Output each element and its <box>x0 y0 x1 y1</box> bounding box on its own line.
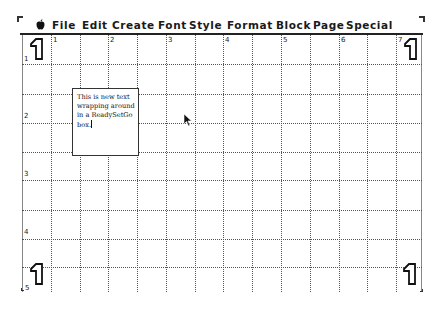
page-number-marker-bottom-right[interactable] <box>403 263 417 285</box>
grid-column-line <box>80 35 81 292</box>
menu-create[interactable]: Create <box>112 20 155 31</box>
apple-menu-icon[interactable] <box>36 19 45 33</box>
grid-row-line <box>22 180 422 181</box>
page-number-marker-top-left[interactable] <box>30 38 44 60</box>
text-insertion-caret <box>91 120 92 128</box>
grid-column-line <box>108 35 109 292</box>
grid-row-line <box>22 210 422 211</box>
text-block-content[interactable]: This is new text wrapping around in a Re… <box>77 93 139 130</box>
menu-edit[interactable]: Edit <box>82 20 108 31</box>
grid-left-edge <box>22 35 23 292</box>
grid-column-line <box>396 35 397 292</box>
row-label: 1 <box>24 56 28 63</box>
page-number-marker-top-right[interactable] <box>404 38 418 60</box>
row-label: 4 <box>24 229 28 236</box>
page-number-marker-bottom-left[interactable] <box>30 263 44 285</box>
menu-page[interactable]: Page <box>313 20 345 31</box>
row-label: 2 <box>24 113 28 120</box>
grid-row-line <box>22 239 422 240</box>
grid-column-line <box>281 35 282 292</box>
grid-row-line <box>22 267 422 268</box>
grid-column-line <box>310 35 311 292</box>
grid-column-line <box>339 35 340 292</box>
grid-column-line <box>223 35 224 292</box>
menu-bar: File Edit Create Font Style Format Block… <box>0 0 443 34</box>
menu-font[interactable]: Font <box>158 20 187 31</box>
text-line: box. <box>77 121 91 129</box>
column-label: 3 <box>168 37 172 44</box>
text-line: This is new text <box>77 93 139 102</box>
column-label: 6 <box>341 37 345 44</box>
grid-column-line <box>252 35 253 292</box>
menu-block[interactable]: Block <box>276 20 311 31</box>
text-block[interactable]: This is new text wrapping around in a Re… <box>72 88 139 156</box>
grid-column-line <box>195 35 196 292</box>
column-label: 7 <box>398 37 402 44</box>
column-label: 2 <box>110 37 114 44</box>
menu-file[interactable]: File <box>52 20 76 31</box>
arrow-cursor-icon <box>183 113 193 127</box>
corner-mark-bottom-right <box>420 289 423 292</box>
grid-column-line <box>51 35 52 292</box>
grid-right-edge <box>421 35 422 292</box>
menu-format[interactable]: Format <box>227 20 273 31</box>
row-label: 3 <box>24 171 28 178</box>
row-label: 5 <box>25 285 29 292</box>
column-label: 1 <box>53 37 57 44</box>
grid-row-line <box>22 64 422 65</box>
text-line: wrapping around <box>77 102 139 111</box>
grid-column-line <box>137 35 138 292</box>
grid-column-line <box>166 35 167 292</box>
grid-column-line <box>367 35 368 292</box>
text-line: in a ReadySetGo <box>77 111 139 120</box>
column-label: 5 <box>283 37 287 44</box>
menu-special[interactable]: Special <box>346 20 393 31</box>
menu-style[interactable]: Style <box>189 20 222 31</box>
column-label: 4 <box>225 37 229 44</box>
corner-mark-bottom-left <box>21 288 24 291</box>
